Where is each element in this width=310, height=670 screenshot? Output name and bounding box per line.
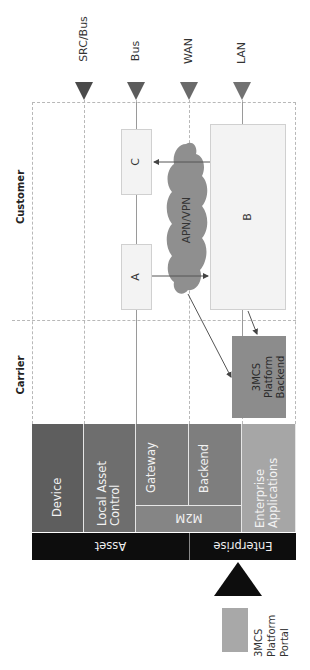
platform-backend-label: 3MCS Platform Backend bbox=[251, 336, 267, 418]
group-asset-label: Asset bbox=[32, 539, 189, 553]
layer-enterprise-label: Enterprise Applications bbox=[254, 428, 282, 528]
legend-line2: Platform bbox=[265, 613, 278, 657]
layer-device-label: Device bbox=[51, 437, 65, 517]
layer-backend-label: Backend bbox=[198, 427, 212, 493]
layer-gateway-label: Gateway bbox=[145, 427, 159, 493]
legend-label: 3MCS Platform Portal bbox=[252, 613, 292, 657]
legend-swatch bbox=[222, 608, 248, 652]
legend-line3: Portal bbox=[278, 613, 291, 657]
platform-backend-line1: 3MCS bbox=[251, 336, 263, 418]
legend-pointer-icon bbox=[214, 562, 262, 596]
layer-enterprise-line2: Applications bbox=[267, 428, 280, 528]
platform-backend-line3: Backend bbox=[275, 336, 287, 418]
layer-local-label: Local Asset Control bbox=[96, 430, 124, 526]
platform-backend-line2: Platform bbox=[263, 336, 275, 418]
layer-local-line2: Control bbox=[109, 430, 122, 526]
arrows-layer bbox=[0, 0, 310, 670]
layer-m2m-label: M2M bbox=[136, 511, 242, 524]
group-enterprise-label: Enterprise bbox=[190, 539, 296, 553]
legend-line1: 3MCS bbox=[252, 613, 265, 657]
